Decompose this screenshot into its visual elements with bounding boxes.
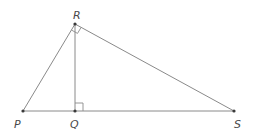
point-p	[21, 109, 24, 112]
point-s	[232, 109, 235, 112]
label-r: R	[73, 9, 81, 22]
point-q	[73, 109, 76, 112]
geometry-diagram: R P Q S	[0, 0, 256, 135]
point-r	[73, 22, 76, 25]
triangle-figure: R P Q S	[0, 0, 256, 135]
segment-pr	[23, 24, 75, 111]
segment-rs	[75, 24, 234, 111]
right-angle-marker-q	[75, 103, 83, 111]
label-p: P	[14, 118, 21, 131]
label-q: Q	[70, 118, 79, 131]
label-s: S	[234, 118, 241, 131]
